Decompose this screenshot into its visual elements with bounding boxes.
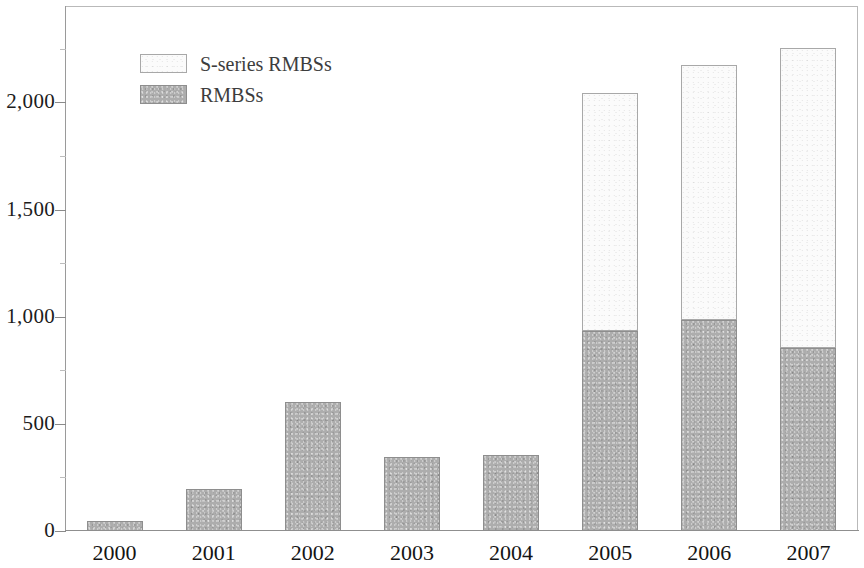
bar-group-2002 — [285, 402, 341, 531]
bar-group-2004 — [483, 455, 539, 531]
bar-segment — [681, 320, 737, 531]
x-axis-tick-label: 2005 — [560, 540, 660, 566]
x-axis-tick-label: 2007 — [758, 540, 858, 566]
legend-item-s-series-rmbss: S-series RMBSs — [140, 48, 440, 79]
legend-swatch-s-series-rmbss — [140, 54, 187, 73]
bar-group-2003 — [384, 457, 440, 531]
bar-group-2000 — [87, 521, 143, 531]
x-axis-tick-label: 2004 — [461, 540, 561, 566]
bar-segment — [780, 48, 836, 348]
bar-segment — [285, 402, 341, 531]
legend-label-rmbss: RMBSs — [200, 85, 263, 105]
legend-label-s-series-rmbss: S-series RMBSs — [200, 54, 332, 74]
x-axis-tick-label: 2003 — [362, 540, 462, 566]
x-axis-tick-label: 2000 — [65, 540, 165, 566]
x-axis-tick-label: 2006 — [659, 540, 759, 566]
x-axis-tick-label: 2001 — [164, 540, 264, 566]
bar-segment — [384, 457, 440, 531]
bar-segment — [186, 489, 242, 531]
bar-segment — [681, 65, 737, 320]
bar-segment — [780, 348, 836, 531]
bar-segment — [483, 455, 539, 531]
bar-group-2005 — [582, 93, 638, 531]
bar-segment — [582, 331, 638, 531]
x-axis-tick-label: 2002 — [263, 540, 363, 566]
bar-group-2001 — [186, 489, 242, 531]
chart-legend: S-series RMBSs RMBSs — [140, 48, 440, 110]
bar-group-2007 — [780, 48, 836, 531]
x-axis-labels: 20002001200220032004200520062007 — [0, 540, 864, 568]
bar-segment — [87, 521, 143, 531]
stacked-bar-chart-figure: 05001,0001,5002,000 20002001200220032004… — [0, 0, 864, 568]
bar-segment — [582, 93, 638, 331]
bar-group-2006 — [681, 65, 737, 531]
legend-item-rmbss: RMBSs — [140, 79, 440, 110]
legend-swatch-rmbss — [140, 85, 187, 104]
